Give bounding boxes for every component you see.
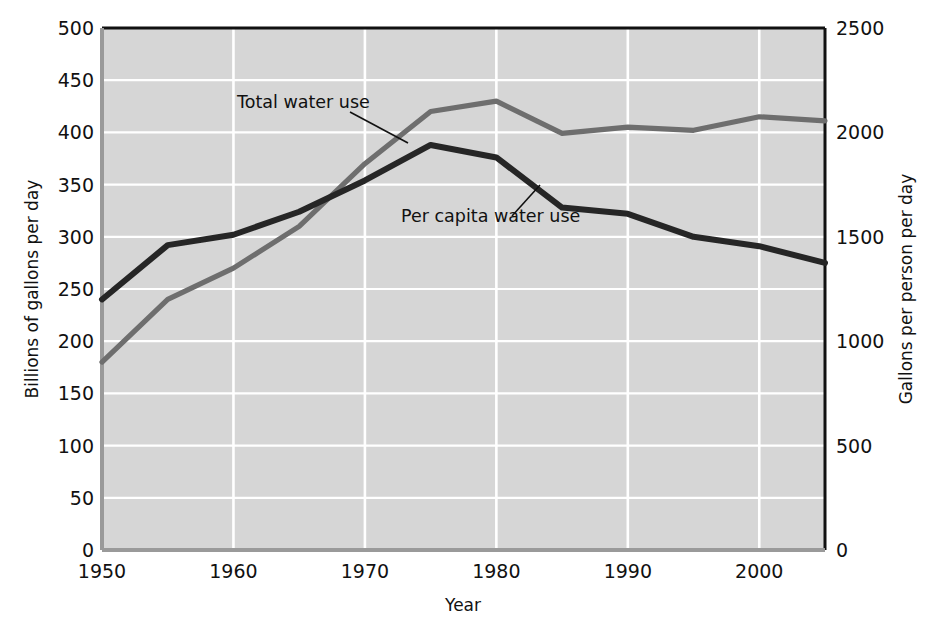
x-tick-label: 2000 — [735, 560, 783, 582]
y-tick-label-left: 400 — [58, 121, 94, 143]
x-tick-label: 1950 — [78, 560, 126, 582]
series-annotation-label: Total water use — [236, 92, 370, 112]
y-tick-label-left: 150 — [58, 382, 94, 404]
left-axis-title: Billions of gallons per day — [22, 180, 42, 399]
chart-figure: 050100150200250300350400450500 050010001… — [0, 0, 935, 623]
y-tick-label-right: 1000 — [836, 330, 884, 352]
series-annotation-label: Per capita water use — [401, 206, 580, 226]
y-tick-label-left: 100 — [58, 435, 94, 457]
x-tick-label: 1990 — [604, 560, 652, 582]
y-tick-label-left: 450 — [58, 69, 94, 91]
x-tick-label: 1980 — [472, 560, 520, 582]
x-tick-label: 1970 — [341, 560, 389, 582]
y-tick-label-left: 300 — [58, 226, 94, 248]
right-axis-tick-labels: 05001000150020002500 — [836, 17, 884, 561]
y-tick-label-right: 2500 — [836, 17, 884, 39]
y-tick-label-left: 200 — [58, 330, 94, 352]
y-tick-label-right: 500 — [836, 435, 872, 457]
x-axis-tick-labels: 195019601970198019902000 — [78, 560, 784, 582]
y-tick-label-right: 0 — [836, 539, 848, 561]
left-axis-tick-labels: 050100150200250300350400450500 — [58, 17, 94, 561]
water-use-line-chart: 050100150200250300350400450500 050010001… — [0, 0, 935, 623]
y-tick-label-right: 2000 — [836, 121, 884, 143]
right-axis-title: Gallons per person per day — [896, 174, 916, 405]
y-tick-label-right: 1500 — [836, 226, 884, 248]
y-tick-label-left: 50 — [70, 487, 94, 509]
y-tick-label-left: 500 — [58, 17, 94, 39]
x-axis-title: Year — [444, 595, 481, 615]
y-tick-label-left: 0 — [82, 539, 94, 561]
y-tick-label-left: 350 — [58, 174, 94, 196]
x-tick-label: 1960 — [209, 560, 257, 582]
y-tick-label-left: 250 — [58, 278, 94, 300]
